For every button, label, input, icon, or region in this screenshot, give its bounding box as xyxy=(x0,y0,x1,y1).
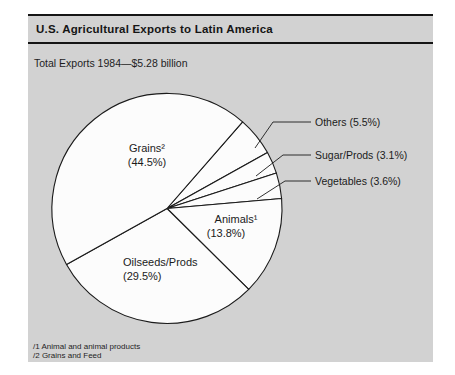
chart-title: U.S. Agricultural Exports to Latin Ameri… xyxy=(36,23,273,35)
chart-footnotes: /1 Animal and animal products /2 Grains … xyxy=(33,342,140,360)
footnote-1: /1 Animal and animal products xyxy=(33,342,140,351)
footnote-2: /2 Grains and Feed xyxy=(33,351,140,360)
chart-title-bar: U.S. Agricultural Exports to Latin Ameri… xyxy=(28,16,433,44)
chart-subtitle: Total Exports 1984—$5.28 billion xyxy=(34,57,433,69)
chart-panel: U.S. Agricultural Exports to Latin Ameri… xyxy=(28,14,433,362)
figure-page: U.S. Agricultural Exports to Latin Ameri… xyxy=(0,0,455,375)
